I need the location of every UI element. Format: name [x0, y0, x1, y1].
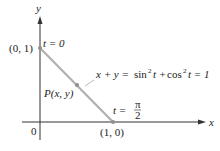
start-param-label: t = 0 — [43, 37, 65, 49]
equation-t1: t + — [153, 68, 166, 80]
equation-lhs: x + y = — [95, 68, 129, 80]
equation-sup1: 2 — [148, 67, 152, 75]
x-axis-arrow-icon — [198, 120, 206, 125]
equation-sup2: 2 — [183, 67, 187, 75]
x-axis-label: x — [208, 116, 214, 128]
equation-cos: cos — [167, 68, 182, 80]
end-param-denominator: 2 — [135, 109, 141, 121]
start-point-label: (0, 1) — [9, 42, 33, 55]
moving-point-label: P(x, y) — [43, 87, 74, 100]
equation-sin: sin — [134, 68, 147, 80]
equation-leader — [85, 80, 94, 86]
y-axis-label: y — [35, 2, 41, 14]
origin-label: 0 — [31, 125, 37, 137]
y-axis-arrow-icon — [38, 16, 43, 24]
parametric-diagram: y x 0 (0, 1) t = 0 (1, 0) t = π 2 P(x, y… — [0, 0, 220, 151]
moving-point — [75, 83, 79, 87]
end-point-label: (1, 0) — [100, 126, 124, 139]
equation-t2: t = 1 — [188, 68, 209, 80]
start-point — [38, 46, 42, 50]
end-param-label: t = — [113, 104, 126, 116]
end-point — [111, 120, 115, 124]
